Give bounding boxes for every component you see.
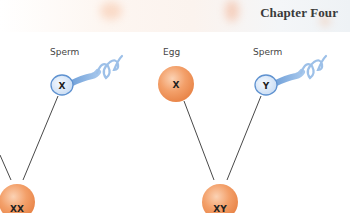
sperm-tail-icon — [97, 56, 122, 78]
zygote-xy-label: XY — [213, 204, 227, 213]
zygote-xy-cell: XY — [202, 184, 238, 213]
egg-cell: X — [158, 66, 194, 102]
egg-chromosome-label: X — [173, 80, 180, 90]
sperm-x-chromosome-label: X — [59, 81, 66, 91]
line-sperm-y-to-xy — [227, 96, 261, 180]
sperm-y-type-label: Sperm — [253, 47, 282, 57]
sperm-y-chromosome-label: Y — [262, 81, 270, 91]
sperm-y-cell: Y — [255, 56, 326, 95]
zygote-xx-cell: XX — [0, 184, 35, 213]
sex-determination-diagram: X X Y XX XY — [0, 0, 350, 213]
line-egg-to-xx — [0, 155, 11, 180]
sperm-midpiece — [274, 72, 302, 84]
egg-type-label: Egg — [163, 47, 180, 57]
sperm-midpiece — [70, 72, 98, 84]
zygote-xx-label: XX — [10, 204, 24, 213]
sperm-x-cell: X — [51, 56, 122, 95]
line-egg-to-xy — [184, 101, 214, 180]
sperm-tail-icon — [301, 56, 326, 78]
sperm-x-type-label: Sperm — [50, 47, 79, 57]
lineage-lines — [0, 96, 261, 180]
line-sperm-x-to-xx — [23, 96, 58, 180]
